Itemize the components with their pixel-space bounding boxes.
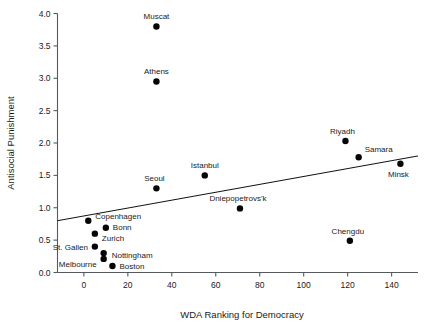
scatter-plot-figure: 0.00.51.01.52.02.53.03.54.0 020406080100… (0, 0, 427, 326)
y-tick-label: 1.0 (39, 203, 51, 213)
data-point-label: Copenhagen (95, 212, 141, 221)
y-tick-label: 2.0 (39, 138, 51, 148)
data-point-label: Boston (119, 262, 144, 271)
data-point-label: Zurich (102, 234, 124, 243)
y-tick-label: 3.0 (39, 73, 51, 83)
data-point-label: Seoul (144, 174, 165, 183)
data-point-label: Muscat (144, 12, 171, 21)
data-point-label: Minsk (388, 170, 410, 179)
data-point-label: Bonn (113, 223, 132, 232)
data-point (85, 218, 91, 224)
data-point-label: Chengdu (332, 227, 364, 236)
x-axis-ticks: 020406080100120140 (82, 273, 399, 290)
x-tick-label: 140 (385, 280, 399, 290)
y-tick-label: 3.5 (39, 41, 51, 51)
data-point (109, 263, 115, 269)
x-axis-title: WDA Ranking for Democracy (180, 309, 304, 320)
x-tick-label: 100 (297, 280, 311, 290)
data-point (153, 185, 159, 191)
data-point (100, 250, 106, 256)
y-tick-label: 0.0 (39, 268, 51, 278)
x-tick-label: 40 (167, 280, 177, 290)
x-tick-label: 80 (255, 280, 265, 290)
data-point-labels-group: MuscatAthensRiyadhSamaraMinskIstanbulSeo… (53, 12, 410, 271)
x-tick-label: 120 (341, 280, 355, 290)
data-point (92, 230, 98, 236)
data-point (92, 243, 98, 249)
data-point (202, 172, 208, 178)
data-point (397, 161, 403, 167)
data-point-label: Riyadh (330, 127, 355, 136)
data-point (153, 23, 159, 29)
y-tick-label: 4.0 (39, 9, 51, 19)
data-point-label: Athens (144, 67, 169, 76)
data-point (100, 256, 106, 262)
data-point-label: Dniepopetrovs'k (209, 194, 267, 203)
data-point (153, 78, 159, 84)
data-point (347, 238, 353, 244)
y-axis-title: Antisocial Punishment (5, 96, 16, 190)
data-point (355, 154, 361, 160)
y-tick-label: 1.5 (39, 170, 51, 180)
plot-canvas: 0.00.51.01.52.02.53.03.54.0 020406080100… (0, 0, 427, 326)
data-point-label: Melbourne (59, 260, 97, 269)
data-point-label: Nottingham (112, 251, 153, 260)
y-tick-label: 2.5 (39, 106, 51, 116)
x-tick-label: 60 (211, 280, 221, 290)
data-point-label: St. Gallen (53, 243, 88, 252)
y-axis-ticks: 0.00.51.01.52.02.53.03.54.0 (39, 9, 58, 278)
y-tick-label: 0.5 (39, 235, 51, 245)
data-point-label: Istanbul (191, 161, 219, 170)
data-point (103, 225, 109, 231)
data-point (342, 138, 348, 144)
x-tick-label: 0 (82, 280, 87, 290)
data-point (237, 205, 243, 211)
data-point-label: Samara (365, 145, 394, 154)
x-tick-label: 20 (123, 280, 133, 290)
